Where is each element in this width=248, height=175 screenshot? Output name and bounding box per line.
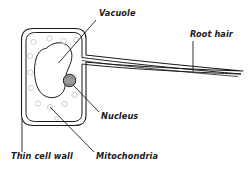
vacuole-leader-line	[59, 20, 97, 63]
mitochondria-icon	[27, 53, 32, 58]
mitochondria-leader-line	[50, 107, 94, 152]
label-thin-cell-wall: Thin cell wall	[11, 151, 73, 161]
mitochondria-icon	[47, 36, 52, 41]
root-hair-cell-diagram: Vacuole Root hair Nucleus Mitochondria T…	[0, 0, 248, 175]
label-vacuole: Vacuole	[99, 8, 136, 18]
mitochondria-icon	[35, 101, 40, 106]
nucleus-group	[63, 74, 75, 86]
mitochondria-icon	[73, 37, 78, 42]
mitochondria-icon	[28, 85, 33, 90]
mitochondria-icon	[72, 92, 77, 97]
mitochondria-icon	[28, 70, 33, 75]
vacuole-shape	[34, 43, 71, 98]
mitochondria-icon	[31, 39, 36, 44]
label-root-hair: Root hair	[190, 29, 234, 39]
diagram-canvas: Vacuole Root hair Nucleus Mitochondria T…	[0, 0, 248, 175]
label-nucleus: Nucleus	[101, 111, 138, 121]
label-mitochondria: Mitochondria	[96, 151, 158, 161]
mitochondria-icon	[62, 101, 67, 106]
mitochondria-icon	[55, 117, 59, 121]
